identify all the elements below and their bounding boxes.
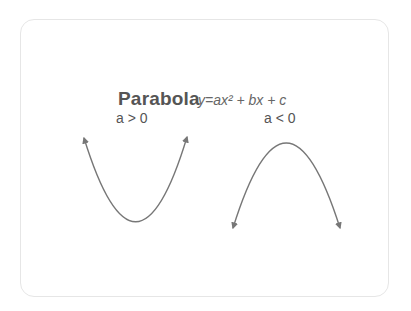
upward-parabola-curve (84, 137, 187, 222)
downward-parabola-curve (233, 143, 340, 228)
parabola-curves (0, 0, 411, 311)
